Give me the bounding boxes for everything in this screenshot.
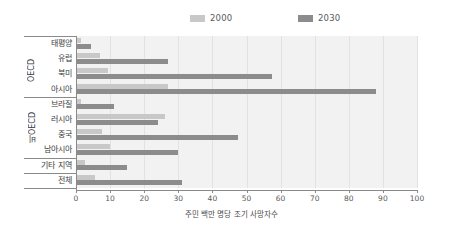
category-label-태평양: 태평양 bbox=[51, 39, 72, 48]
chart-container: 2000 2030 0102030405060708090100 태평양유럽북미… bbox=[0, 0, 463, 233]
x-tick-label: 90 bbox=[378, 194, 388, 203]
x-tick-label: 70 bbox=[310, 194, 320, 203]
bar-2030-아시아 bbox=[76, 89, 376, 94]
category-label-유럽: 유럽 bbox=[58, 54, 72, 63]
x-tick-label: 0 bbox=[74, 194, 79, 203]
legend-swatch-2000 bbox=[190, 15, 205, 22]
bar-2030-북미 bbox=[76, 74, 272, 79]
gridline bbox=[383, 36, 384, 188]
bar-2030-전체 bbox=[76, 180, 182, 185]
group-separator bbox=[24, 158, 76, 159]
bar-2000-전체 bbox=[76, 175, 95, 180]
gridline bbox=[349, 36, 350, 188]
x-tick-label: 30 bbox=[174, 194, 184, 203]
plot-area bbox=[76, 36, 417, 188]
category-label-전체: 전체 bbox=[58, 176, 72, 185]
bar-2030-러시아 bbox=[76, 120, 158, 125]
bar-2030-중국 bbox=[76, 135, 238, 140]
x-tick-label: 100 bbox=[410, 194, 424, 203]
gridline bbox=[178, 36, 179, 188]
legend-item-2030: 2030 bbox=[298, 14, 340, 23]
y-axis-line bbox=[76, 36, 77, 191]
bar-2000-북미 bbox=[76, 68, 108, 73]
x-tick bbox=[247, 190, 248, 193]
bar-2000-기타 지역 bbox=[76, 160, 85, 165]
chart-legend: 2000 2030 bbox=[0, 14, 463, 28]
bar-2000-중국 bbox=[76, 129, 102, 134]
category-label-중국: 중국 bbox=[58, 130, 72, 139]
x-axis-title: 주민 백만 명당 조기 사망자수 bbox=[0, 208, 463, 219]
category-label-러시아: 러시아 bbox=[51, 115, 72, 124]
legend-label-2030: 2030 bbox=[318, 14, 340, 23]
category-label-북미: 북미 bbox=[58, 69, 72, 78]
bar-2000-남아시아 bbox=[76, 144, 110, 149]
gridline bbox=[247, 36, 248, 188]
bar-2030-기타 지역 bbox=[76, 165, 127, 170]
group-separator bbox=[24, 97, 76, 98]
group-separator bbox=[24, 188, 76, 189]
x-tick bbox=[178, 190, 179, 193]
bar-2000-러시아 bbox=[76, 114, 165, 119]
gridline bbox=[281, 36, 282, 188]
bar-2000-아시아 bbox=[76, 84, 168, 89]
x-tick bbox=[349, 190, 350, 193]
bar-2030-남아시아 bbox=[76, 150, 178, 155]
bar-2030-유럽 bbox=[76, 59, 168, 64]
bar-2030-태평양 bbox=[76, 44, 91, 49]
x-tick bbox=[281, 190, 282, 193]
category-label-기타 지역: 기타 지역 bbox=[41, 161, 72, 170]
x-tick bbox=[76, 190, 77, 193]
x-tick bbox=[110, 190, 111, 193]
x-tick-label: 10 bbox=[105, 194, 115, 203]
group-label-비OECD: 비OECD bbox=[27, 111, 38, 143]
x-tick bbox=[417, 190, 418, 193]
x-tick bbox=[383, 190, 384, 193]
category-label-아시아: 아시아 bbox=[51, 85, 72, 94]
gridline bbox=[417, 36, 418, 188]
x-tick-label: 20 bbox=[139, 194, 149, 203]
legend-item-2000: 2000 bbox=[190, 14, 232, 23]
x-tick-label: 60 bbox=[276, 194, 286, 203]
x-tick-label: 50 bbox=[242, 194, 252, 203]
gridline bbox=[212, 36, 213, 188]
x-tick bbox=[212, 190, 213, 193]
group-label-OECD: OECD bbox=[27, 50, 36, 82]
category-label-브라질: 브라질 bbox=[51, 100, 72, 109]
legend-label-2000: 2000 bbox=[210, 14, 232, 23]
bar-2000-유럽 bbox=[76, 53, 100, 58]
x-tick bbox=[315, 190, 316, 193]
x-tick-label: 80 bbox=[344, 194, 354, 203]
group-separator bbox=[24, 36, 76, 37]
bar-2030-브라질 bbox=[76, 104, 114, 109]
x-tick bbox=[144, 190, 145, 193]
gridline bbox=[315, 36, 316, 188]
legend-swatch-2030 bbox=[298, 15, 313, 22]
category-label-남아시아: 남아시아 bbox=[44, 145, 72, 154]
x-tick-label: 40 bbox=[208, 194, 218, 203]
group-separator bbox=[24, 173, 76, 174]
